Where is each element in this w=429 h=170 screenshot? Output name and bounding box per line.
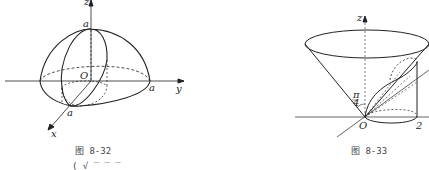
label-angle-den: 4: [352, 97, 359, 108]
label-a-front: a: [67, 107, 73, 118]
footer-fragment: ( √ ‾ ‾ ‾: [72, 161, 121, 170]
x-axis: [50, 81, 91, 128]
label-z-axis: z: [83, 0, 90, 7]
z-axis-arrow-icon: [363, 16, 367, 22]
cylinder-intersection-curve: [61, 29, 107, 106]
label-y-axis: y: [175, 83, 182, 94]
label-a-top: a: [83, 18, 89, 29]
label-a-right: a: [149, 82, 155, 93]
caption-fig-8-32: 图 8-32: [75, 146, 111, 156]
label-two: 2: [415, 120, 422, 131]
label-origin: O: [80, 70, 88, 81]
caption-fig-8-33: 图 8-33: [351, 146, 387, 156]
hemisphere-outline: [40, 29, 150, 81]
figure-8-33: [295, 16, 429, 137]
label-x-axis: x: [51, 128, 57, 139]
label-z-axis-2: z: [356, 12, 363, 23]
z-axis-arrow-icon: [89, 0, 93, 6]
figures-canvas: z a O a y a x 图 8-32 ( √ ‾ ‾ ‾ z π 4 O 2…: [0, 0, 429, 170]
cylinder-base: [365, 117, 417, 123]
figure-8-32: [5, 0, 184, 130]
cone-top-ellipse: [305, 30, 429, 58]
label-origin-2: O: [359, 120, 367, 131]
